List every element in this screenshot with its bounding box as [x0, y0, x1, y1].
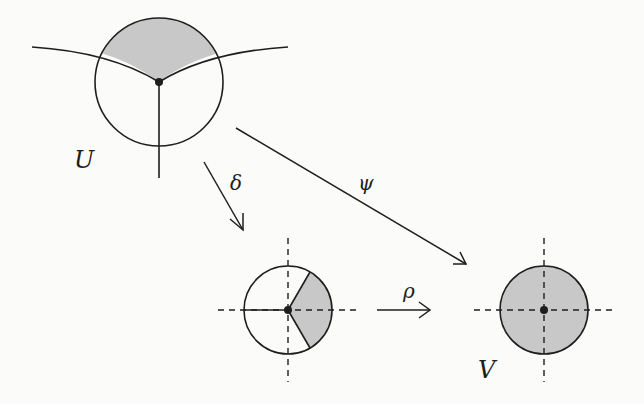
disc-v-center-point — [540, 306, 548, 314]
label-psi: ψ — [358, 171, 374, 195]
disc-u-center-point — [155, 78, 163, 86]
label-v: V — [478, 356, 498, 384]
label-u: U — [74, 146, 95, 174]
disc-delta-image — [218, 238, 358, 382]
arrow-rho — [377, 302, 430, 318]
arrow-psi — [236, 128, 466, 264]
disc-delta-image-center-point — [284, 306, 292, 314]
arrow-delta-head — [230, 213, 243, 230]
label-rho: ρ — [402, 279, 415, 303]
disc-u — [32, 0, 288, 178]
label-delta: δ — [230, 171, 242, 195]
commutative-diagram: U δ ψ ρ V — [0, 0, 644, 404]
